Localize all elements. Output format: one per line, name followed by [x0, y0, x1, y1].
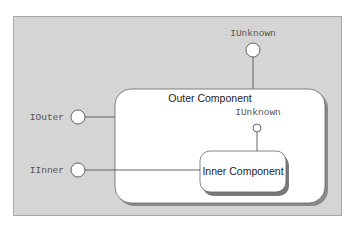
- iouter-label: IOuter: [30, 112, 64, 123]
- inner-iunknown-lollipop-icon: [253, 124, 261, 132]
- iouter-lollipop-icon: [71, 110, 85, 124]
- outer-iunknown-label: IUnknown: [230, 28, 276, 39]
- iouter-interface: IOuter: [30, 110, 115, 124]
- outer-iunknown-interface: IUnknown: [230, 28, 276, 89]
- inner-iunknown-label: IUnknown: [235, 107, 281, 118]
- com-aggregation-diagram: Outer Component IUnknown IOuter Inner Co…: [0, 0, 353, 228]
- iinner-lollipop-icon: [71, 163, 85, 177]
- inner-component-label: Inner Component: [202, 165, 283, 177]
- outer-component-label: Outer Component: [168, 92, 252, 104]
- outer-iunknown-lollipop-icon: [246, 43, 260, 57]
- iinner-label: IInner: [30, 165, 64, 176]
- inner-component: Inner Component: [200, 151, 289, 196]
